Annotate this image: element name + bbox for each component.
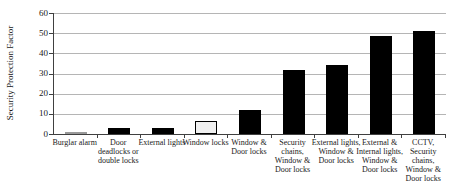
bar-security-chains-window-door-locks: [283, 70, 305, 134]
bar-cctv-security-chains-window-door-locks: [413, 31, 435, 134]
bar-external-lights-window-door-locks: [326, 65, 348, 134]
x-category-label-line: deadlocks or: [89, 147, 147, 156]
y-tick-mark-0: [49, 134, 53, 135]
y-tick-label-10: 10: [18, 109, 48, 118]
bar-window-door-locks: [239, 110, 261, 134]
y-tick-label-40: 40: [18, 49, 48, 58]
y-tick-mark-30: [49, 74, 53, 75]
y-tick-label-60: 60: [18, 9, 48, 18]
x-category-label-cctv-security-chains-window-door-locks: CCTV,Securitychains,Window &Door locks: [394, 138, 452, 183]
x-category-label-line: double locks: [89, 156, 147, 165]
bar-burglar-alarm: [65, 132, 87, 134]
y-tick-label-30: 30: [18, 69, 48, 78]
y-tick-mark-20: [49, 94, 53, 95]
gridline-50: [54, 33, 446, 34]
x-category-label-line: CCTV,: [394, 138, 452, 147]
x-category-label-line: Security: [394, 147, 452, 156]
y-axis-title: Security Protection Factor: [5, 13, 17, 133]
x-category-label-line: Door locks: [264, 165, 322, 174]
bar-door-deadlocks-or-double-locks: [108, 128, 130, 134]
y-tick-mark-50: [49, 33, 53, 34]
y-tick-label-50: 50: [18, 29, 48, 38]
x-category-label-line: chains,: [394, 156, 452, 165]
bar-external-internal-lights-window-door-locks: [370, 36, 392, 134]
y-tick-label-20: 20: [18, 89, 48, 98]
bar-external-lights: [152, 128, 174, 134]
gridline-60: [54, 13, 446, 14]
x-category-label-line: Window &: [394, 165, 452, 174]
y-tick-mark-60: [49, 13, 53, 14]
y-tick-label-0: 0: [18, 130, 48, 139]
security-protection-factor-chart: Security Protection Factor 0102030405060…: [0, 0, 460, 188]
y-tick-mark-40: [49, 53, 53, 54]
plot-area: [53, 13, 446, 135]
x-category-label-line: Door locks: [394, 174, 452, 183]
bar-window-locks: [195, 121, 217, 134]
y-tick-mark-10: [49, 114, 53, 115]
